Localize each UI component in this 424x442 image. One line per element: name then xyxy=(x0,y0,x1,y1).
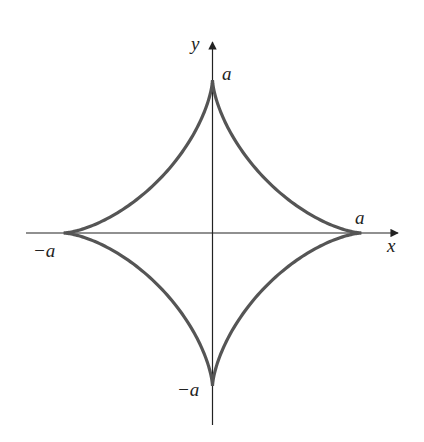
x-axis-label: x xyxy=(387,236,395,255)
label-bottom-neg-a: −a xyxy=(177,380,199,399)
y-axis-label: y xyxy=(191,34,199,53)
label-top-a: a xyxy=(222,64,232,83)
label-right-a: a xyxy=(355,208,365,227)
label-left-neg-a: −a xyxy=(33,241,55,260)
